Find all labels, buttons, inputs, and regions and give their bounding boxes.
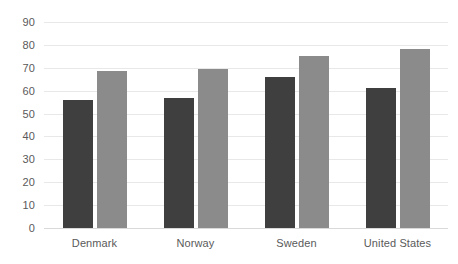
- x-axis-tick-label: Sweden: [276, 238, 316, 249]
- x-axis-tick-label: United States: [364, 238, 431, 249]
- y-axis-tick-label: 40: [23, 131, 35, 142]
- bar[interactable]: [97, 71, 127, 228]
- y-axis-tick-label: 70: [23, 62, 35, 73]
- bar-group: [164, 22, 228, 228]
- y-axis-tick-label: 60: [23, 85, 35, 96]
- y-axis-tick-label: 50: [23, 108, 35, 119]
- bar[interactable]: [366, 88, 396, 228]
- y-axis-tick-label: 10: [23, 200, 35, 211]
- bar[interactable]: [63, 100, 93, 228]
- y-axis-tick-label: 30: [23, 154, 35, 165]
- x-axis-tick-label: Norway: [177, 238, 215, 249]
- bar[interactable]: [265, 77, 295, 228]
- x-axis-tick-label: Denmark: [72, 238, 117, 249]
- bar[interactable]: [400, 49, 430, 228]
- bar-group: [366, 22, 430, 228]
- bar-group: [63, 22, 127, 228]
- bar[interactable]: [164, 98, 194, 228]
- y-axis-tick-label: 80: [23, 39, 35, 50]
- x-axis: DenmarkNorwaySwedenUnited States: [44, 230, 448, 264]
- y-axis-tick-label: 90: [23, 17, 35, 28]
- bar[interactable]: [299, 56, 329, 228]
- y-axis-tick-label: 0: [29, 223, 35, 234]
- bar-chart: 0102030405060708090 DenmarkNorwaySwedenU…: [0, 0, 458, 264]
- bars-layer: [44, 22, 448, 228]
- bar[interactable]: [198, 69, 228, 228]
- y-axis-tick-label: 20: [23, 177, 35, 188]
- y-axis: 0102030405060708090: [0, 0, 44, 264]
- plot-area: [44, 22, 448, 228]
- bar-group: [265, 22, 329, 228]
- gridline: [44, 228, 448, 229]
